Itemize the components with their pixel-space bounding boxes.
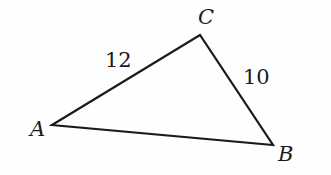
triangle-abc — [52, 35, 273, 145]
side-label-cb: 10 — [243, 65, 270, 89]
triangle-figure: C A B 12 10 — [0, 0, 331, 175]
vertex-label-b: B — [277, 142, 293, 166]
triangle-diagram: C A B 12 10 — [0, 0, 331, 175]
vertex-label-a: A — [28, 117, 45, 141]
vertex-label-c: C — [198, 5, 214, 29]
side-label-ac: 12 — [105, 48, 132, 72]
